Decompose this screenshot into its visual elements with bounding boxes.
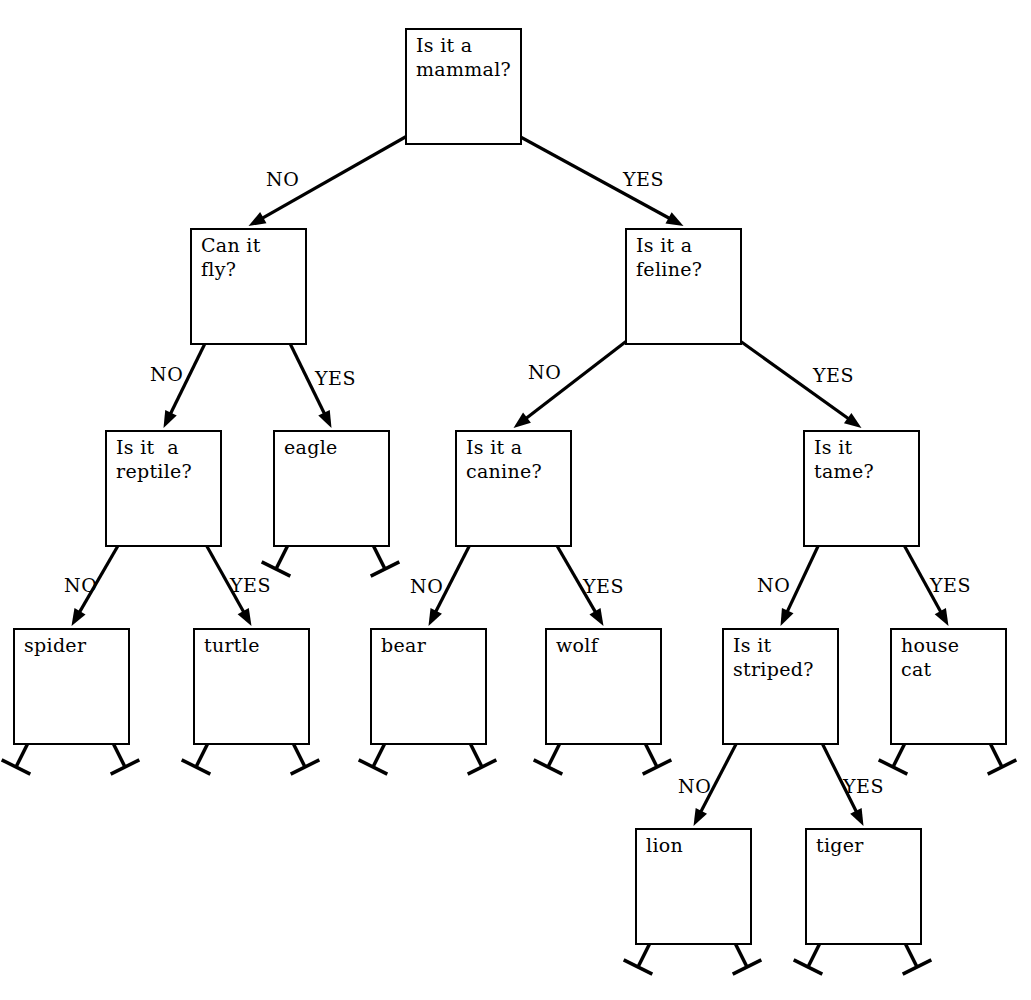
node-label-tiger: tiger xyxy=(816,833,864,857)
node-spider[interactable]: spider xyxy=(13,628,130,745)
node-housecat[interactable]: house cat xyxy=(890,628,1007,745)
edge-label-fly-yes: YES xyxy=(315,367,356,389)
node-fly[interactable]: Can it fly? xyxy=(190,228,307,345)
edge-label-tame-no: NO xyxy=(757,574,790,596)
node-wolf[interactable]: wolf xyxy=(545,628,662,745)
node-label-canine: Is it a canine? xyxy=(466,435,542,483)
node-bear[interactable]: bear xyxy=(370,628,487,745)
node-striped[interactable]: Is it striped? xyxy=(722,628,839,745)
node-tame[interactable]: Is it tame? xyxy=(803,430,920,547)
node-label-eagle: eagle xyxy=(284,435,338,459)
node-label-lion: lion xyxy=(646,833,683,857)
node-label-striped: Is it striped? xyxy=(733,633,814,681)
node-tiger[interactable]: tiger xyxy=(805,828,922,945)
decision-tree-diagram: Is it a mammal?Can it fly?Is it a feline… xyxy=(0,0,1031,1000)
edge-label-feline-no: NO xyxy=(528,361,561,383)
node-label-feline: Is it a feline? xyxy=(636,233,702,281)
edge-label-feline-yes: YES xyxy=(813,364,854,386)
node-label-mammal: Is it a mammal? xyxy=(416,33,511,81)
edge-label-reptile-no: NO xyxy=(64,574,97,596)
edge-label-fly-no: NO xyxy=(150,363,183,385)
node-reptile[interactable]: Is it a reptile? xyxy=(105,430,222,547)
node-label-housecat: house cat xyxy=(901,633,959,681)
node-mammal[interactable]: Is it a mammal? xyxy=(405,28,522,145)
node-label-turtle: turtle xyxy=(204,633,260,657)
node-eagle[interactable]: eagle xyxy=(273,430,390,547)
node-label-wolf: wolf xyxy=(556,633,598,657)
node-label-reptile: Is it a reptile? xyxy=(116,435,192,483)
edge-label-mammal-yes: YES xyxy=(623,168,664,190)
node-lion[interactable]: lion xyxy=(635,828,752,945)
node-turtle[interactable]: turtle xyxy=(193,628,310,745)
edge-label-canine-no: NO xyxy=(410,575,443,597)
edge-label-tame-yes: YES xyxy=(930,574,971,596)
edge-label-striped-yes: YES xyxy=(843,775,884,797)
node-canine[interactable]: Is it a canine? xyxy=(455,430,572,547)
node-label-tame: Is it tame? xyxy=(814,435,874,483)
edge-label-canine-yes: YES xyxy=(583,575,624,597)
edge-label-mammal-no: NO xyxy=(266,168,299,190)
node-feline[interactable]: Is it a feline? xyxy=(625,228,742,345)
node-label-bear: bear xyxy=(381,633,426,657)
node-label-spider: spider xyxy=(24,633,86,657)
node-label-fly: Can it fly? xyxy=(201,233,261,281)
edge-label-striped-no: NO xyxy=(678,775,711,797)
edge-label-reptile-yes: YES xyxy=(230,574,271,596)
